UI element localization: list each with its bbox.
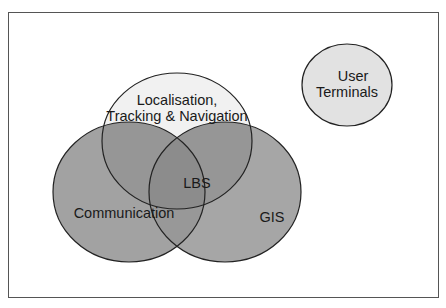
user-terminals-label-line2: Terminals (316, 84, 378, 100)
user-terminals-label-line1: User (338, 68, 369, 84)
gis-label: GIS (260, 209, 285, 225)
lbs-label: LBS (183, 175, 210, 191)
localisation-label-line1: Localisation, (137, 92, 218, 108)
venn-diagram: Localisation, Tracking & Navigation Comm… (0, 0, 446, 308)
localisation-label-line2: Tracking & Navigation (106, 108, 247, 124)
communication-label: Communication (74, 205, 175, 221)
